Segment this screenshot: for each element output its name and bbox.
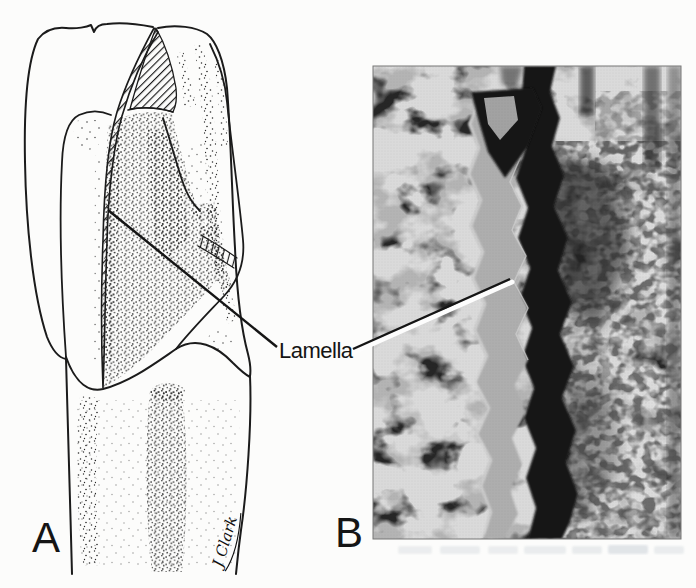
panel-a-label: A xyxy=(32,514,60,561)
figure-canvas: Lamella A B J Clark xyxy=(0,0,696,588)
panel-b-label: B xyxy=(335,509,363,556)
figure-svg: Lamella A B J Clark xyxy=(0,0,696,588)
crown-outline-left xyxy=(25,162,66,359)
root-outline-left xyxy=(66,359,72,574)
print-bleedthrough xyxy=(398,545,684,554)
lamella-label: Lamella xyxy=(279,338,354,363)
tooth-stipple-shading xyxy=(74,42,240,572)
panel-b-micrograph xyxy=(373,66,681,539)
